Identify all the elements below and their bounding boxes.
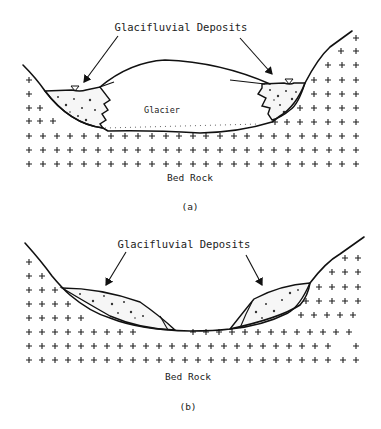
valley-profile-a [23, 31, 352, 133]
glacier-label: Glacier [144, 105, 180, 115]
arrow-left-b [106, 252, 126, 285]
left-deposit-a [45, 87, 110, 128]
deposits-label-a: Glacifluvial Deposits [115, 21, 248, 33]
panel-a: Glacifluvial Deposits Glacier Bed Rock (… [23, 21, 359, 212]
arrow-left-a [84, 36, 118, 82]
bedrock-crosses-b [26, 255, 361, 363]
deposits-label-b: Glacifluvial Deposits [118, 238, 251, 250]
caption-b: (b) [179, 401, 196, 412]
glacial-valley-diagram: Glacifluvial Deposits Glacier Bed Rock (… [0, 0, 381, 429]
bedrock-label-a: Bed Rock [167, 172, 213, 183]
left-deposit-b [62, 288, 175, 330]
panel-b: Glacifluvial Deposits Bed Rock (b) [25, 237, 364, 412]
arrow-right-a [240, 38, 272, 74]
bedrock-label-b: Bed Rock [165, 371, 211, 382]
glacier-outline-a [100, 60, 270, 87]
valley-profile-b [25, 237, 364, 331]
caption-a: (a) [181, 201, 198, 212]
arrow-right-b [246, 255, 262, 285]
